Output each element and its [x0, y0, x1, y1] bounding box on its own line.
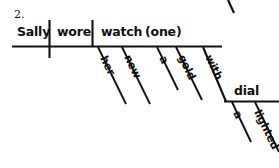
diagram-word-verb: wore — [57, 26, 91, 39]
diagram-word-subject: Sally — [17, 26, 50, 39]
diagram-word-prepositional-object-dial: dial — [234, 85, 259, 98]
diagram-word-direct-object: watch — [101, 26, 142, 39]
diagram-word-appositive: (one) — [145, 26, 181, 39]
stray-ink-mark — [228, 0, 234, 13]
sentence-diagram-page: 2. Sally wore watch (one) her new a g — [0, 0, 279, 168]
